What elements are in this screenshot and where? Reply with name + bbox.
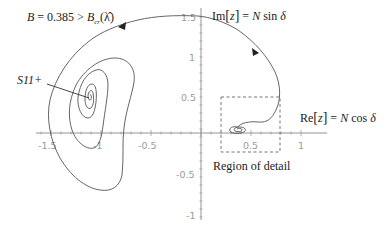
y-tick-label: 0.5 [181,92,196,103]
x-tick-label: 1 [298,140,304,151]
y-tick-label: -0.5 [176,169,195,180]
im-prefix: Im [212,9,226,23]
y-tick-label: 1 [189,52,195,63]
b-annotation: B = 0.385 > Bcr(λ̂) [27,10,114,26]
arrow-head-icon [252,48,259,56]
s11-leader-line [47,84,89,98]
x-tick-label: 0.5 [243,140,258,151]
x-tick-label: -0.5 [138,140,157,151]
re-prefix: Re [300,111,313,125]
y-tick-label: 1.5 [181,12,196,23]
bcr-argument: (λ̂) [100,10,114,24]
arrow-head-icon [118,22,126,30]
func-cos: cos [348,111,370,125]
func-sin: sin [260,9,280,23]
equals: = [327,111,340,125]
y-tick-label: -1 [186,210,195,221]
var-delta: δ [370,111,376,125]
b-value: = 0.385 > [34,10,87,24]
detail-spiral [230,127,246,134]
x-axis-label: Re[z] = N cos δ [300,110,376,125]
phase-plane-diagram: -1.5 -1 -0.5 0.5 1 1.5 1 0.5 -0.5 -1 Reg… [0,0,392,227]
axis-ticks [41,17,301,217]
var-delta: δ [280,9,286,23]
s11-label: S11+ [17,73,42,87]
equals: = [239,9,252,23]
region-of-detail-label: Region of detail [213,159,291,173]
s11-label-text: S11+ [17,73,42,87]
y-axis-label: Im[z] = N sin δ [212,8,286,23]
